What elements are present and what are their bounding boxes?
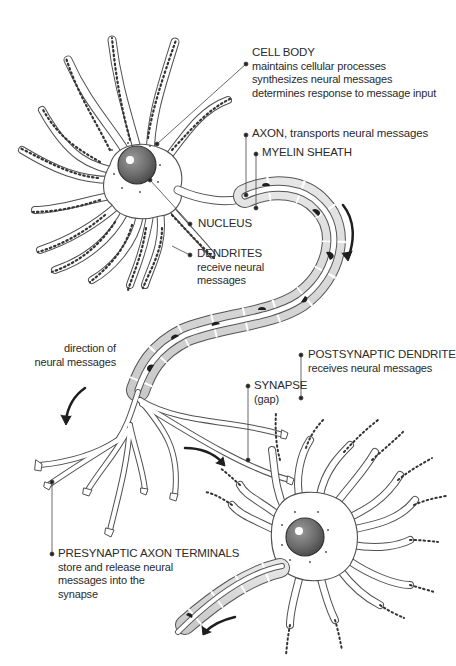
- cell-body-desc-3: determines response to message input: [252, 87, 436, 101]
- synapse-desc: (gap): [254, 393, 307, 407]
- label-cell-body: CELL BODY maintains cellular processes s…: [252, 46, 436, 100]
- presynaptic-terminals-title: PRESYNAPTIC AXON TERMINALS: [58, 547, 239, 561]
- label-myelin-sheath: MYELIN SHEATH: [262, 146, 352, 160]
- dendrites-title: DENDRITES: [197, 247, 264, 261]
- myelin-sheath-title: MYELIN SHEATH: [262, 146, 352, 160]
- label-postsynaptic-dendrite: POSTSYNAPTIC DENDRITE receives neural me…: [308, 348, 456, 375]
- presynaptic-terminals-desc-1: store and release neural: [58, 561, 239, 575]
- direction-desc-2: neural messages: [30, 356, 116, 370]
- direction-desc-1: direction of: [30, 342, 116, 356]
- cell-body-desc-2: synthesizes neural messages: [252, 73, 436, 87]
- label-direction: direction of neural messages: [30, 342, 116, 369]
- nucleus-title: NUCLEUS: [198, 217, 252, 231]
- synapse-title: SYNAPSE: [254, 379, 307, 393]
- dendrites-desc-1: receive neural: [197, 261, 264, 275]
- postsynaptic-dendrite-title: POSTSYNAPTIC DENDRITE: [308, 348, 456, 362]
- label-presynaptic-terminals: PRESYNAPTIC AXON TERMINALS store and rel…: [58, 547, 239, 601]
- cell-body-desc-1: maintains cellular processes: [252, 60, 436, 74]
- label-axon: AXON, transports neural messages: [252, 127, 428, 141]
- label-synapse: SYNAPSE (gap): [254, 379, 307, 406]
- presynaptic-axon-terminals: [35, 392, 294, 537]
- postsynaptic-dendrite-desc: receives neural messages: [308, 362, 456, 376]
- dendrites-desc-2: messages: [197, 274, 264, 288]
- arrow-icon: [61, 388, 85, 425]
- label-dendrites: DENDRITES receive neural messages: [197, 247, 264, 288]
- label-nucleus: NUCLEUS: [198, 217, 252, 231]
- presynaptic-terminals-desc-2: messages into the: [58, 574, 239, 588]
- axon-title: AXON, transports neural messages: [252, 127, 428, 141]
- presynaptic-terminals-desc-3: synapse: [58, 588, 239, 602]
- cell-body-title: CELL BODY: [252, 46, 436, 60]
